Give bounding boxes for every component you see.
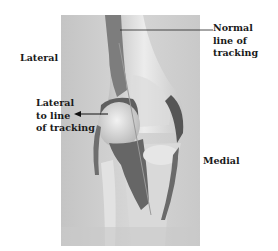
label-normal-line-of-tracking: Normal line of tracking (213, 22, 258, 60)
label-line: to line (36, 110, 95, 123)
label-lateral-to-line-of-tracking: Lateral to line of tracking (36, 97, 95, 135)
label-line: Lateral (36, 97, 95, 110)
label-lateral: Lateral (20, 52, 58, 65)
label-line: Normal (213, 22, 258, 35)
label-line: line of (213, 35, 258, 48)
label-medial: Medial (203, 155, 240, 168)
label-line: tracking (213, 47, 258, 60)
label-line: of tracking (36, 122, 95, 135)
normal-tracking-leader-line (120, 27, 215, 33)
